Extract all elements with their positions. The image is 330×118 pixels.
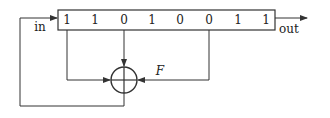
bit-7: 1 xyxy=(262,13,270,27)
tap-line-right xyxy=(138,30,209,80)
feedback-label: F xyxy=(155,64,165,78)
bit-4: 0 xyxy=(176,13,184,27)
register-bits: 1 1 0 1 0 0 1 1 xyxy=(63,13,270,27)
bit-1: 1 xyxy=(91,13,99,27)
bit-5: 0 xyxy=(205,13,213,27)
xor-icon xyxy=(111,67,137,93)
lfsr-diagram: 1 1 0 1 0 0 1 1 out in F xyxy=(0,0,330,118)
bit-6: 1 xyxy=(234,13,242,27)
bit-0: 1 xyxy=(63,13,71,27)
output-label: out xyxy=(279,22,299,36)
bit-3: 1 xyxy=(148,13,156,27)
bit-2: 0 xyxy=(120,13,128,27)
input-label: in xyxy=(34,20,46,34)
tap-line-left xyxy=(67,30,110,80)
